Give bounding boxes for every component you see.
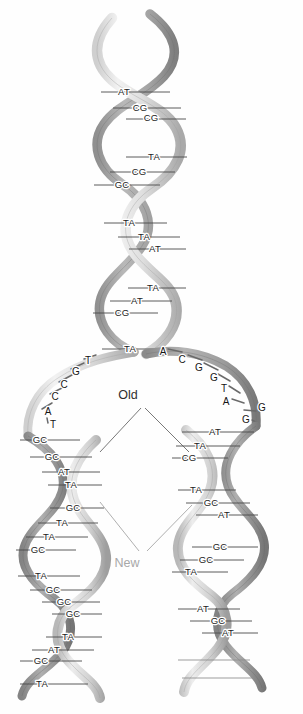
right-daughter-base-pair-label: TA (190, 484, 202, 495)
left-unpaired-base-label: T (85, 355, 91, 366)
right-unpaired-base-label: A (223, 396, 230, 407)
right-daughter-ribbons (178, 426, 265, 692)
left-daughter-base-pair-label: GC (33, 434, 48, 445)
parent-base-pair-label: CG (115, 307, 130, 318)
right-daughter-base-pair-label: CG (182, 452, 197, 463)
right-unpaired-base-label: G (210, 372, 218, 383)
right-daughter-base-pair-label: GC (213, 541, 228, 552)
parent-base-pair-label: TA (148, 151, 160, 162)
parent-base-pair-label: CG (144, 112, 159, 123)
right-unpaired-base-label: G (195, 362, 203, 373)
left-daughter-base-pair-label: GC (46, 584, 61, 595)
left-daughter-base-pair-label: TA (62, 631, 74, 642)
left-daughter-base-pair-label: GC (45, 451, 60, 462)
right-daughter-base-pair-label: AT (222, 627, 234, 638)
right-daughter-base-pair-label: GC (199, 554, 214, 565)
parent-base-pair-label: TA (147, 282, 159, 293)
left-unpaired-base-label: A (45, 406, 52, 417)
right-daughter-base-pair-label: AT (218, 509, 230, 520)
right-daughter-base-pair-label: GC (211, 615, 226, 626)
callout-old-label: Old (118, 388, 138, 402)
left-unpaired-base-label: T (50, 419, 56, 430)
parent-base-pair-label: GC (115, 179, 130, 190)
right-unpaired-base-label: C (178, 354, 185, 365)
left-daughter-base-pair-label: GC (34, 655, 49, 666)
parent-base-pair-label: TA (124, 343, 136, 354)
right-unpaired-base-label: G (242, 414, 250, 425)
right-unpaired-base-label: G (258, 402, 266, 413)
left-daughter-base-pair-label: TA (65, 479, 77, 490)
left-daughter-base-pair-label: GC (66, 502, 81, 513)
left-daughter-base-pair-label: GC (31, 544, 46, 555)
callout-new-label: New (114, 556, 140, 570)
right-daughter-base-pair-label: AT (197, 603, 209, 614)
left-daughter-base-pair-label: GC (57, 596, 72, 607)
parent-base-pair-label: TA (138, 231, 150, 242)
left-daughter-base-pair-label: AT (58, 466, 70, 477)
left-daughter-base-pair-label: TA (35, 570, 47, 581)
right-unpaired-base-label: T (221, 383, 227, 394)
left-daughter-base-pair-label: GC (66, 608, 81, 619)
dna-replication-figure: ATATCGCGCGCGTATACGCGGCGCTATATATAATATTATA… (0, 0, 303, 714)
parent-base-pair-label: TA (123, 217, 135, 228)
left-daughter-base-pair-label: TA (56, 517, 68, 528)
parent-base-pair-label: AT (118, 86, 130, 97)
left-daughter-base-pair-label: TA (43, 531, 55, 542)
left-unpaired-base-label: G (72, 366, 80, 377)
right-unpaired-base-label: A (160, 346, 167, 357)
parent-base-pair-label: AT (131, 295, 143, 306)
parent-base-pair-label: AT (149, 243, 161, 254)
left-unpaired-base-label: C (60, 379, 67, 390)
left-daughter-base-pair-label: AT (48, 644, 60, 655)
parent-base-pair-label: CG (132, 166, 147, 177)
right-daughter-base-pair-label: GC (204, 497, 219, 508)
left-unpaired-base-label: C (51, 391, 58, 402)
right-daughter-base-pair-label: TA (194, 440, 206, 451)
right-daughter-base-pair-label: TA (185, 566, 197, 577)
left-daughter-base-pair-label: TA (36, 678, 48, 689)
dna-diagram-svg: ATATCGCGCGCGTATACGCGGCGCTATATATAATATTATA… (0, 0, 303, 714)
right-daughter-base-pair-label: AT (209, 426, 221, 437)
